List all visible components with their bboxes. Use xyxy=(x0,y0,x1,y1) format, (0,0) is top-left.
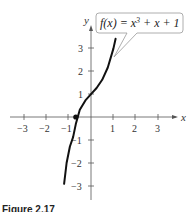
zero-point-marker xyxy=(73,114,78,119)
x-tick-label: −2 xyxy=(39,123,50,134)
y-tick-label: −3 xyxy=(71,181,82,192)
y-tick-label: −2 xyxy=(71,158,82,169)
y-tick-label: 1 xyxy=(78,89,83,100)
x-axis-label: x xyxy=(180,111,186,123)
function-graph: x y −3 −2 −1 1 2 3 3 2 1 −1 −2 −3 f(x) =… xyxy=(0,0,196,212)
figure-caption: Figure 2.17 xyxy=(2,204,55,212)
y-tick-label: 3 xyxy=(78,43,83,54)
function-callout: f(x) = x3 + x + 1 xyxy=(96,13,183,57)
x-tick-label: 3 xyxy=(155,123,160,134)
x-tick-label: 2 xyxy=(132,123,137,134)
x-axis-arrow-icon xyxy=(172,115,178,119)
x-tick-label: −1 xyxy=(61,123,72,134)
y-axis-arrow-icon xyxy=(89,25,93,31)
y-tick-label: 2 xyxy=(78,66,83,77)
function-label: f(x) = x3 + x + 1 xyxy=(100,16,180,30)
y-axis-label: y xyxy=(83,14,89,26)
x-tick-label: −3 xyxy=(17,123,28,134)
x-tick-label: 1 xyxy=(110,123,115,134)
